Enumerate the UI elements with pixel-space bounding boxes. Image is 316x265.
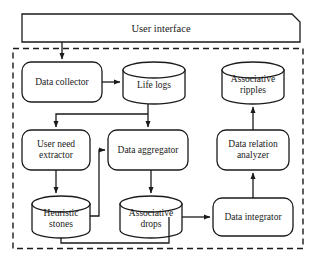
node-data-collector[interactable] — [22, 62, 102, 102]
node-data-aggregator[interactable] — [108, 130, 188, 170]
node-associative-ripples[interactable] — [222, 62, 284, 104]
node-user-need-extractor[interactable] — [22, 130, 90, 170]
diagram-canvas: User interface Data collector Life logs … — [0, 0, 316, 265]
edge-life-logs-to-user-need-extractor — [56, 114, 148, 127]
node-data-integrator[interactable] — [213, 198, 293, 236]
node-user-interface[interactable] — [22, 14, 300, 42]
node-associative-drops[interactable] — [120, 196, 182, 238]
diagram-svg — [0, 0, 316, 265]
node-data-relation-analyzer[interactable] — [217, 130, 289, 170]
node-heuristic-stones[interactable] — [32, 196, 90, 238]
node-life-logs[interactable] — [123, 62, 185, 104]
edge-heuristic-stones-to-data-aggregator — [90, 150, 105, 216]
